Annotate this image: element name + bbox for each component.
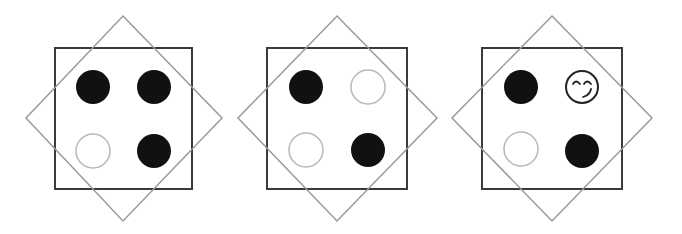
empty-circle-bottom-left (289, 133, 323, 167)
filled-circle-top-left (76, 70, 110, 104)
filled-circle-bottom-right (137, 134, 171, 168)
smiley-face-icon (566, 71, 598, 103)
empty-circle-top-right (351, 70, 385, 104)
filled-circle-top-right (137, 70, 171, 104)
filled-circle-top-left (289, 70, 323, 104)
panel-3 (452, 16, 652, 221)
filled-circle-top-left (504, 70, 538, 104)
square-frame (482, 48, 622, 189)
puzzle-figure (0, 0, 682, 234)
filled-circle-bottom-right (351, 133, 385, 167)
square-frame (55, 48, 192, 189)
square-frame (267, 48, 407, 189)
filled-circle-bottom-right (565, 134, 599, 168)
empty-circle-bottom-left (504, 132, 538, 166)
panel-2 (238, 16, 437, 221)
panel-1 (26, 16, 222, 221)
empty-circle-bottom-left (76, 134, 110, 168)
